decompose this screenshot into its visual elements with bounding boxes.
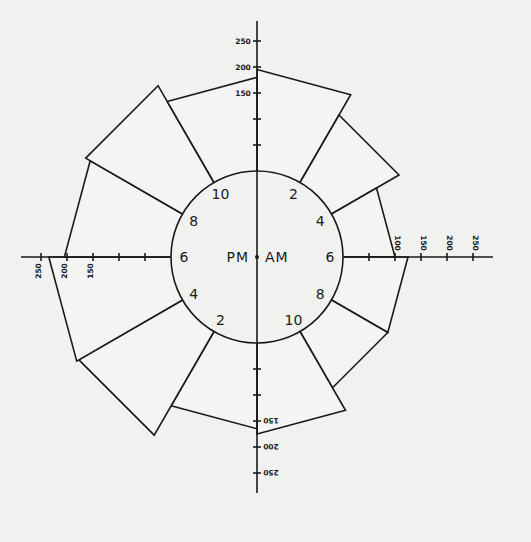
tick-label-bottom-200: 200 xyxy=(263,442,279,451)
tick-label-bottom-250: 250 xyxy=(263,468,279,477)
hour-label-pm-2: 2 xyxy=(216,312,225,328)
tick-label-top-250: 250 xyxy=(235,37,251,46)
tick-label-right-250: 250 xyxy=(471,235,480,251)
tick-label-bottom-150: 150 xyxy=(263,416,279,425)
tick-label-right-100: 100 xyxy=(393,235,402,251)
am-label: AM xyxy=(265,249,289,265)
hour-label-am-10: 10 xyxy=(285,312,303,328)
center-dot xyxy=(255,255,259,259)
hour-label-am-2: 2 xyxy=(289,186,298,202)
tick-label-right-200: 200 xyxy=(445,235,454,251)
tick-label-left-150: 150 xyxy=(86,263,95,279)
tick-label-right-150: 150 xyxy=(419,235,428,251)
tick-label-top-200: 200 xyxy=(235,63,251,72)
chart-canvas: PM AM 246810246810 150150150200200200250… xyxy=(0,0,531,542)
hour-label-am-8: 8 xyxy=(316,286,325,302)
hour-label-am-6: 6 xyxy=(326,249,335,265)
hour-label-pm-10: 10 xyxy=(212,186,230,202)
tick-label-left-250: 250 xyxy=(34,263,43,279)
hour-label-pm-8: 8 xyxy=(189,213,198,229)
hour-label-pm-6: 6 xyxy=(180,249,189,265)
hour-label-pm-4: 4 xyxy=(189,286,198,302)
hour-label-am-4: 4 xyxy=(316,213,325,229)
polar-rose-chart: PM AM 246810246810 150150150200200200250… xyxy=(0,0,531,542)
tick-label-left-200: 200 xyxy=(60,263,69,279)
tick-label-top-150: 150 xyxy=(235,89,251,98)
pm-label: PM xyxy=(226,249,249,265)
